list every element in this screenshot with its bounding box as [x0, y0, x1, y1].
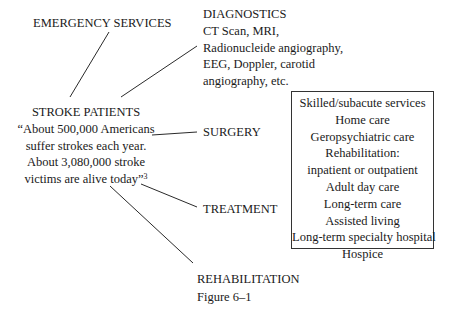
node-surgery: SURGERY: [203, 124, 261, 141]
node-stroke-patients: STROKE PATIENTS “About 500,000 Americans…: [6, 104, 166, 188]
services-box: Skilled/subacute services Home care Gero…: [291, 91, 434, 249]
stroke-quote-line: “About 500,000 Americans: [6, 121, 166, 138]
service-item: Long-term care: [292, 196, 433, 213]
service-item: Rehabilitation:: [292, 145, 433, 162]
connector-diagnostics: [121, 46, 197, 97]
node-diagnostics: DIAGNOSTICS CT Scan, MRI, Radionucleide …: [203, 6, 343, 90]
diagnostics-line: EEG, Doppler, carotid: [203, 56, 343, 73]
service-item: Home care: [292, 112, 433, 129]
stroke-quote-line: About 3,080,000 stroke: [6, 154, 166, 171]
service-item: Skilled/subacute services: [292, 95, 433, 112]
stroke-quote-last: victims are alive today”: [24, 172, 143, 186]
service-item: Long-term specialty hospital: [292, 229, 433, 246]
service-item: Adult day care: [292, 179, 433, 196]
service-item: Hospice: [292, 246, 433, 263]
diagnostics-line: angiography, etc.: [203, 73, 343, 90]
diagnostics-line: Radionucleide angiography,: [203, 40, 343, 57]
connector-rehabilitation: [110, 186, 193, 263]
node-emergency-services: EMERGENCY SERVICES: [33, 15, 171, 32]
stroke-quote-line: suffer strokes each year.: [6, 138, 166, 155]
service-item: Assisted living: [292, 213, 433, 230]
footnote-ref: 3: [144, 172, 148, 181]
figure-caption: Figure 6–1: [197, 289, 252, 306]
service-item: Geropsychiatric care: [292, 129, 433, 146]
node-treatment: TREATMENT: [203, 201, 277, 218]
stroke-quote-line: victims are alive today”3: [6, 171, 166, 188]
service-item: inpatient or outpatient: [292, 162, 433, 179]
diagnostics-line: CT Scan, MRI,: [203, 23, 343, 40]
diagnostics-title: DIAGNOSTICS: [203, 6, 343, 23]
stroke-title: STROKE PATIENTS: [6, 104, 166, 121]
node-rehabilitation: REHABILITATION: [197, 271, 299, 288]
connector-emergency: [70, 32, 109, 97]
